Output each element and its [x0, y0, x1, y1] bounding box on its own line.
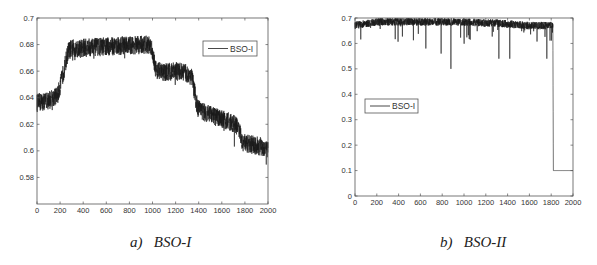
x-tick-label: 800 — [436, 198, 449, 207]
x-tick-label: 2000 — [260, 206, 277, 215]
legend-label: BSO-I — [230, 44, 253, 54]
x-tick-label: 2000 — [565, 198, 582, 207]
x-tick-label: 400 — [392, 198, 405, 207]
chart-panel-bso-ii: 020040060080010001200140016001800200000.… — [300, 0, 597, 265]
y-tick-label: 0.4 — [342, 90, 352, 99]
x-tick-label: 0 — [353, 198, 357, 207]
x-tick-label: 1000 — [144, 206, 161, 215]
x-tick-label: 600 — [100, 206, 113, 215]
y-tick-label: 0.66 — [19, 67, 34, 76]
y-tick-label: 0.7 — [24, 14, 34, 23]
chart-panel-bso-i: 02004006008001000120014001600180020000.5… — [0, 0, 300, 265]
y-tick-label: 0.5 — [342, 64, 352, 73]
x-tick-label: 1600 — [521, 198, 538, 207]
caption-bso-i: a) BSO-I — [130, 234, 191, 251]
x-tick-label: 200 — [371, 198, 384, 207]
y-tick-label: 0.7 — [342, 14, 352, 23]
x-tick-label: 1600 — [213, 206, 230, 215]
y-tick-label: 0.62 — [19, 120, 34, 129]
x-tick-label: 1400 — [499, 198, 516, 207]
x-tick-label: 600 — [414, 198, 427, 207]
x-tick-label: 1400 — [190, 206, 207, 215]
legend: BSO-I — [365, 99, 418, 113]
y-tick-label: 0.3 — [342, 115, 352, 124]
y-tick-label: 0.68 — [19, 40, 34, 49]
y-tick-label: 0 — [348, 192, 352, 201]
x-tick-label: 1200 — [477, 198, 494, 207]
x-tick-label: 800 — [123, 206, 136, 215]
y-tick-label: 0.1 — [342, 166, 352, 175]
y-tick-label: 0.2 — [342, 141, 352, 150]
line-chart-bso-i: 02004006008001000120014001600180020000.5… — [0, 0, 300, 230]
series-line-bso-ii — [355, 18, 573, 171]
y-tick-label: 0.6 — [342, 39, 352, 48]
y-tick-label: 0.64 — [19, 93, 34, 102]
caption-bso-ii: b) BSO-II — [440, 234, 506, 251]
legend-label: BSO-I — [392, 101, 415, 111]
x-tick-label: 1000 — [456, 198, 473, 207]
x-tick-label: 400 — [77, 206, 90, 215]
x-tick-label: 1800 — [237, 206, 254, 215]
x-tick-label: 1800 — [543, 198, 560, 207]
y-tick-label: 0.58 — [19, 173, 34, 182]
x-tick-label: 200 — [54, 206, 67, 215]
line-chart-bso-ii: 020040060080010001200140016001800200000.… — [300, 0, 597, 230]
x-tick-label: 0 — [35, 206, 39, 215]
legend: BSO-I — [203, 41, 257, 56]
x-tick-label: 1200 — [167, 206, 184, 215]
y-tick-label: 0.6 — [24, 146, 34, 155]
